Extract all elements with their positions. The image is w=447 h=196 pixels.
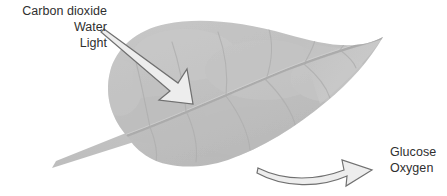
outputs-label-line-2: Oxygen	[390, 160, 436, 176]
leaf-stem	[52, 131, 134, 168]
outputs-label-line-1: Glucose	[390, 144, 436, 160]
inputs-label-line-3: Light	[4, 35, 107, 51]
photosynthesis-diagram: Carbon dioxide Water Light Glucose Oxyge…	[0, 0, 447, 196]
outputs-label: Glucose Oxygen	[390, 144, 436, 176]
inputs-label-line-1: Carbon dioxide	[4, 3, 107, 19]
outputs-arrow	[257, 160, 372, 186]
inputs-label: Carbon dioxide Water Light	[4, 3, 107, 51]
leaf-blade	[98, 21, 383, 167]
inputs-label-line-2: Water	[4, 19, 107, 35]
